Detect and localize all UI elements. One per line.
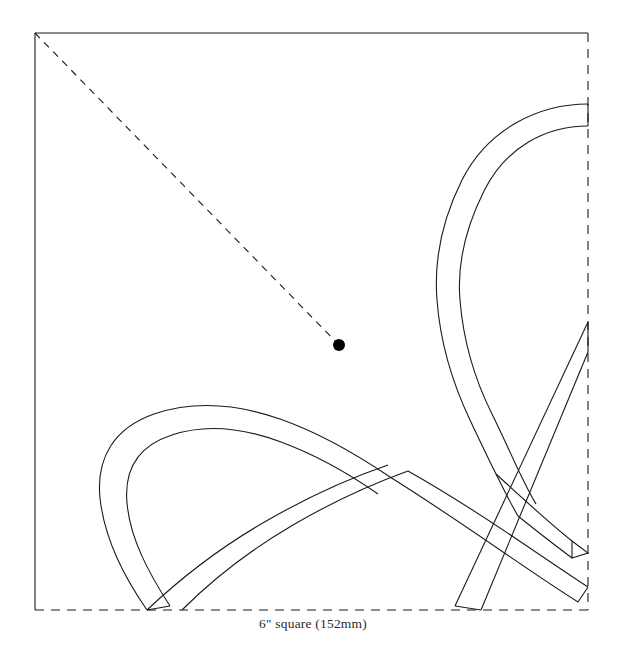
sheet-background [0,0,626,645]
block-size-caption: 6" square (152mm) [0,616,626,632]
pattern-sheet: 6" square (152mm) [0,0,626,645]
pattern-drawing [0,0,626,645]
center-registration-dot [333,339,345,351]
